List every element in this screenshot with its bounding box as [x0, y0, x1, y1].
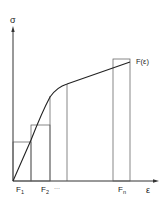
curve-label: F(ε) [136, 57, 149, 66]
x-axis-label: ε [146, 185, 150, 195]
y-axis-label: σ [10, 15, 16, 25]
discretization-bars [13, 59, 130, 181]
tick-label-f2: F2 [41, 185, 49, 195]
x-axis-arrow-icon [153, 179, 159, 182]
curve-f-epsilon [13, 62, 130, 181]
tick-label-fn: Fn [118, 185, 126, 195]
bar-fn [113, 59, 130, 181]
tick-label-f1: F1 [16, 185, 24, 195]
x-tick-labels: F1 F2 ··· Fn [16, 185, 126, 195]
y-axis-arrow-icon [11, 26, 14, 32]
axes [11, 26, 159, 183]
stress-strain-diagram: σ ε F(ε) F1 F2 ··· Fn [0, 0, 167, 200]
tick-label-ellipsis: ··· [54, 185, 60, 191]
